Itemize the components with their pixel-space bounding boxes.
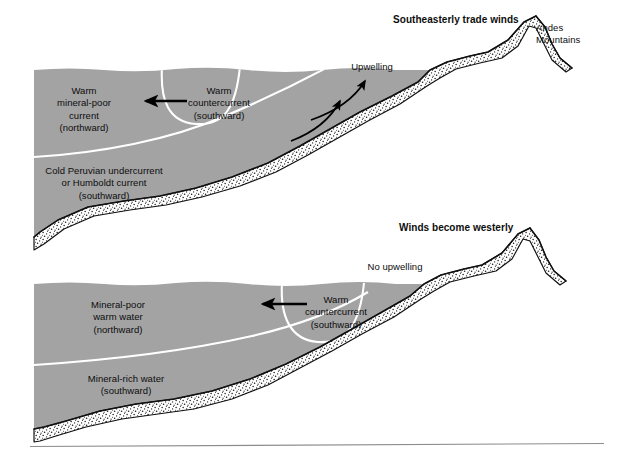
deep-current-upper-line1: Cold Peruvian undercurrent [20,165,188,177]
surface-current-upper-line3: current [28,110,140,122]
surface-current-upper-line4: (northward) [28,122,140,134]
countercurrent-upper-line2: countercurrent [173,97,265,109]
andes-label-upper-line2: Mountains [536,34,612,46]
upwelling-figure: Southeasterly trade winds Andes Mountain… [0,0,618,459]
countercurrent-lower-line3: (southward) [290,319,382,331]
countercurrent-label-lower: Warm countercurrent (southward) [290,294,382,331]
surface-current-lower-line2: warm water [66,311,170,323]
countercurrent-label-upper: Warm countercurrent (southward) [173,85,265,122]
upwelling-label-upper: Upwelling [341,61,403,73]
countercurrent-lower-line2: countercurrent [290,306,382,318]
surface-current-upper-line2: mineral-poor [28,97,140,109]
surface-current-upper-line1: Warm [28,85,140,97]
countercurrent-lower-line1: Warm [290,294,382,306]
deep-current-label-lower: Mineral-rich water (southward) [58,373,194,398]
andes-label-upper-line1: Andes [536,22,612,34]
surface-current-lower-line3: (northward) [66,324,170,336]
wind-label-upper: Southeasterly trade winds [393,14,519,26]
bottom-divider-rule [30,444,604,447]
upwelling-label-lower: No upwelling [358,261,432,273]
wind-label-lower: Winds become westerly [399,222,513,234]
deep-current-upper-line2: or Humboldt current [20,177,188,189]
deep-current-upper-line3: (southward) [20,190,188,202]
deep-current-lower-line1: Mineral-rich water [58,373,194,385]
deep-current-lower-line2: (southward) [58,385,194,397]
deep-current-label-upper: Cold Peruvian undercurrent or Humboldt c… [20,165,188,202]
countercurrent-upper-line1: Warm [173,85,265,97]
surface-current-lower-line1: Mineral-poor [66,299,170,311]
andes-label-upper: Andes Mountains [536,22,612,47]
countercurrent-upper-line3: (southward) [173,110,265,122]
surface-current-label-lower: Mineral-poor warm water (northward) [66,299,170,336]
surface-current-label-upper: Warm mineral-poor current (northward) [28,85,140,135]
